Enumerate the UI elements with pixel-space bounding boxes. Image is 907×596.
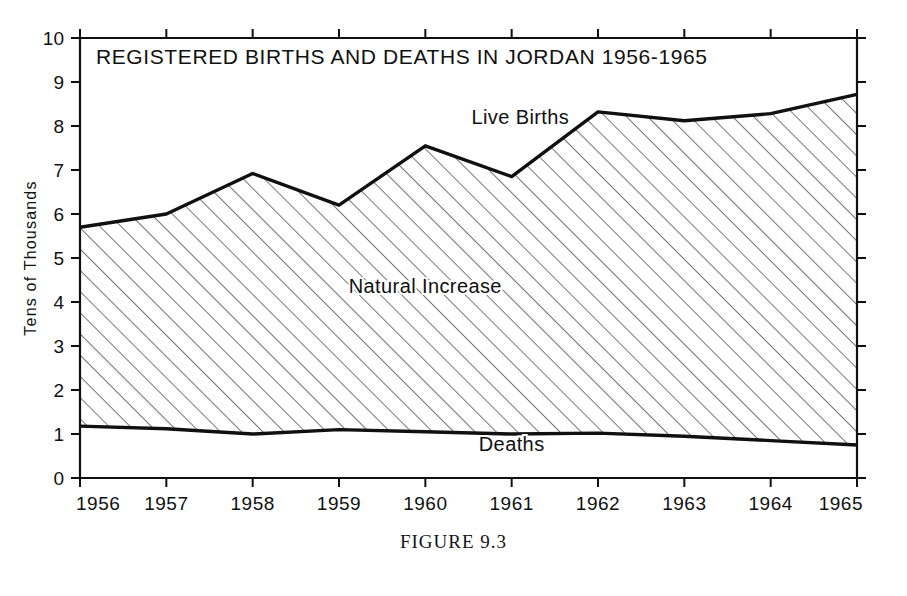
figure-caption: FIGURE 9.3 bbox=[0, 531, 907, 553]
x-tick-label: 1963 bbox=[662, 493, 706, 514]
x-tick-label: 1956 bbox=[76, 493, 120, 514]
y-tick-label: 5 bbox=[53, 248, 64, 269]
x-tick-label: 1959 bbox=[317, 493, 361, 514]
x-tick-label: 1960 bbox=[403, 493, 447, 514]
x-tick-label: 1957 bbox=[144, 493, 188, 514]
y-tick-label: 7 bbox=[53, 160, 64, 181]
chart-title: REGISTERED BIRTHS AND DEATHS IN JORDAN 1… bbox=[96, 45, 708, 68]
y-tick-label: 9 bbox=[53, 72, 64, 93]
y-tick-label: 4 bbox=[53, 292, 64, 313]
figure-caption-label: FIGURE bbox=[400, 531, 475, 552]
natural-increase-annotation: Natural Increase bbox=[349, 275, 502, 297]
figure-caption-number: 9.3 bbox=[480, 531, 507, 552]
y-tick-label: 0 bbox=[53, 468, 64, 489]
x-tick-label: 1964 bbox=[749, 493, 793, 514]
live-births-annotation: Live Births bbox=[471, 106, 569, 128]
y-tick-label: 8 bbox=[53, 116, 64, 137]
deaths-annotation: Deaths bbox=[479, 433, 545, 455]
y-tick-label: 1 bbox=[53, 424, 64, 445]
y-tick-label: 3 bbox=[53, 336, 64, 357]
x-tick-label: 1965 bbox=[819, 493, 863, 514]
x-tick-label: 1958 bbox=[231, 493, 275, 514]
figure-container: 012345678910 195619571958195919601961196… bbox=[0, 0, 907, 596]
x-tick-label: 1962 bbox=[576, 493, 620, 514]
y-axis-title: Tens of Thousands bbox=[22, 180, 39, 335]
y-tick-label: 10 bbox=[43, 28, 64, 49]
y-tick-label: 2 bbox=[53, 380, 64, 401]
x-tick-label: 1961 bbox=[490, 493, 534, 514]
births-deaths-area-chart: 012345678910 195619571958195919601961196… bbox=[0, 0, 907, 596]
y-tick-label: 6 bbox=[53, 204, 64, 225]
